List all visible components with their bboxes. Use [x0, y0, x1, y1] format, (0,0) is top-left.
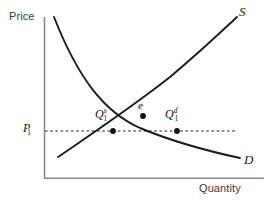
equilibrium-label: e: [138, 100, 143, 111]
supply-demand-figure: Price Quantity S D P1 Qs1 e Qd1: [0, 0, 264, 204]
y-axis-title: Price: [9, 10, 35, 22]
equilibrium-base: e: [138, 99, 143, 111]
demand-curve: [54, 17, 240, 158]
quantity-demanded-base: Q: [165, 107, 174, 121]
plot-canvas: [0, 0, 264, 204]
price-level-subscript: 1: [27, 128, 31, 137]
quantity-supplied-base: Q: [95, 107, 104, 121]
point-quantity-supplied: [110, 128, 116, 134]
supply-curve: [58, 17, 237, 157]
quantity-supplied-subscript: 1: [104, 114, 108, 123]
quantity-supplied-label: Qs1: [95, 108, 107, 120]
point-equilibrium: [140, 113, 146, 119]
x-axis-title: Quantity: [199, 182, 241, 194]
quantity-demanded-label: Qd1: [165, 108, 178, 120]
demand-curve-label: D: [244, 152, 253, 168]
quantity-demanded-subscript: 1: [174, 114, 178, 123]
price-level-label: P1: [23, 122, 31, 134]
point-quantity-demanded: [174, 128, 180, 134]
supply-curve-label: S: [239, 4, 246, 20]
